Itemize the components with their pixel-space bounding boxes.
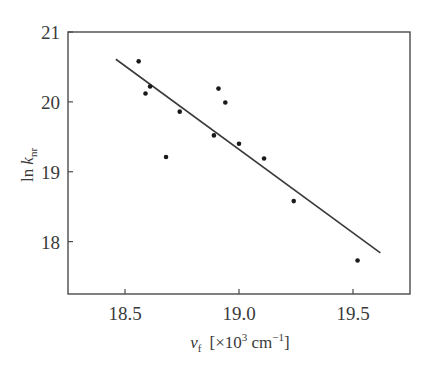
data-point — [143, 91, 148, 96]
x-axis-label: νf[×103 cm−1] — [190, 331, 289, 354]
data-points — [136, 59, 359, 263]
data-point — [262, 156, 267, 161]
plot-frame — [68, 32, 410, 294]
y-tick-label: 20 — [41, 92, 60, 113]
data-point — [216, 86, 221, 91]
data-point — [223, 100, 228, 105]
data-point — [355, 258, 360, 263]
data-point — [212, 133, 217, 138]
y-tick-label: 21 — [41, 22, 60, 43]
x-tick-label: 19.0 — [222, 303, 255, 324]
data-point — [291, 199, 296, 204]
x-tick-label: 19.5 — [336, 303, 369, 324]
y-axis-label: ln knr — [18, 148, 39, 183]
data-point — [148, 84, 153, 89]
x-tick-label: 18.5 — [108, 303, 141, 324]
fit-line — [116, 59, 380, 253]
data-point — [164, 155, 169, 160]
data-point — [177, 109, 182, 114]
scatter-chart: 18.519.019.5 18192021 νf[×103 cm−1] ln k… — [0, 0, 425, 370]
y-tick-label: 19 — [41, 162, 60, 183]
data-point — [136, 59, 141, 64]
regression-line — [116, 59, 380, 253]
y-tick-label: 18 — [41, 232, 60, 253]
data-point — [237, 141, 242, 146]
